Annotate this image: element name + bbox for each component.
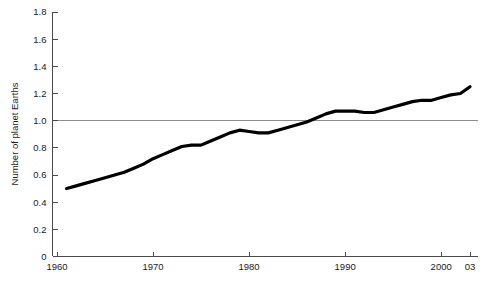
y-tick-label: 0.4 — [33, 197, 46, 208]
y-tick-label: 0.6 — [33, 169, 46, 180]
plot-background — [0, 0, 488, 283]
x-tick-label: 2000 — [431, 261, 452, 272]
x-tick-label: 1990 — [335, 261, 356, 272]
x-tick-label: 1970 — [142, 261, 163, 272]
y-tick-label: 1.4 — [33, 61, 46, 72]
y-tick-label: 1.6 — [33, 34, 46, 45]
y-axis-title-group: Number of planet Earths — [9, 82, 20, 185]
x-tick-label: 1980 — [239, 261, 260, 272]
x-tick-label: 1960 — [46, 261, 67, 272]
y-tick-label: 1.2 — [33, 88, 46, 99]
ecological-footprint-line-chart: 00.20.40.60.81.01.21.41.61.8 19601970198… — [0, 0, 488, 283]
y-tick-label: 0.8 — [33, 142, 46, 153]
x-tick-label: 03 — [465, 261, 476, 272]
y-tick-label: 1.0 — [33, 115, 46, 126]
y-tick-label: 1.8 — [33, 6, 46, 17]
chart-container: 00.20.40.60.81.01.21.41.61.8 19601970198… — [0, 0, 488, 283]
y-tick-label: 0.2 — [33, 224, 46, 235]
y-axis-title: Number of planet Earths — [9, 82, 20, 185]
